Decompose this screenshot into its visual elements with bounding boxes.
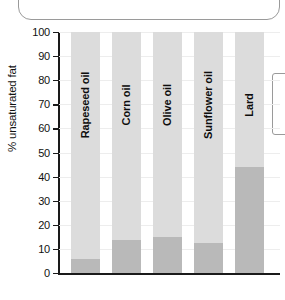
y-tick: [53, 225, 58, 226]
bar: Rapeseed oil: [71, 32, 100, 273]
y-axis-title: % unsaturated fat: [6, 65, 18, 152]
x-axis-line: [58, 273, 280, 275]
bar-segment-saturated: [112, 240, 141, 273]
bar-segment-unsaturated: [194, 32, 223, 273]
bar-segment-saturated: [194, 243, 223, 273]
y-tick: [53, 104, 58, 105]
y-tick-label: 0: [44, 267, 50, 279]
y-tick: [53, 249, 58, 250]
callout-box-cropped: [18, 0, 280, 20]
bar-segment-unsaturated: [112, 32, 141, 273]
y-tick: [53, 32, 58, 33]
y-tick: [53, 201, 58, 202]
y-tick: [53, 80, 58, 81]
y-tick: [53, 177, 58, 178]
bar: Sunflower oil: [194, 32, 223, 273]
bar-segment-saturated: [153, 237, 182, 273]
y-tick-label: 70: [38, 98, 50, 110]
y-tick-label: 30: [38, 195, 50, 207]
bar-label: Corn oil: [120, 85, 132, 126]
bar-segment-saturated: [71, 259, 100, 273]
bar-label: Olive oil: [161, 85, 173, 127]
y-tick-label: 40: [38, 171, 50, 183]
y-tick-label: 90: [38, 50, 50, 62]
bar: Lard: [235, 32, 264, 273]
bar-label: Rapeseed oil: [79, 72, 91, 139]
y-tick: [53, 56, 58, 57]
bar-segment-unsaturated: [71, 32, 100, 273]
y-tick-label: 60: [38, 122, 50, 134]
y-tick-label: 20: [38, 219, 50, 231]
bar-label: Sunflower oil: [202, 72, 214, 140]
y-tick: [53, 273, 58, 274]
bar: Corn oil: [112, 32, 141, 273]
y-tick: [53, 153, 58, 154]
y-tick-label: 50: [38, 147, 50, 159]
bar-segment-saturated: [235, 167, 264, 273]
bar-group: Rapeseed oilCorn oilOlive oilSunflower o…: [60, 32, 272, 273]
plot-area: 0102030405060708090100 Rapeseed oilCorn …: [58, 32, 272, 275]
y-tick-label: 100: [32, 26, 50, 38]
y-tick-label: 10: [38, 243, 50, 255]
y-tick-label: 80: [38, 74, 50, 86]
bar: Olive oil: [153, 32, 182, 273]
bar-label: Lard: [243, 94, 255, 117]
chart-figure: % unsaturated fat 0102030405060708090100…: [0, 0, 285, 300]
y-tick: [53, 128, 58, 129]
